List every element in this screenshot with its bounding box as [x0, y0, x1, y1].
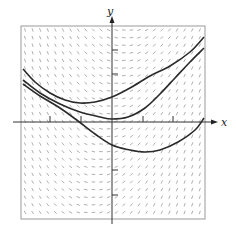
x-axis-arrow-icon	[211, 120, 218, 125]
y-axis-label: y	[106, 5, 114, 18]
slope-field-chart: x y	[0, 0, 236, 229]
x-axis-label: x	[221, 116, 228, 129]
